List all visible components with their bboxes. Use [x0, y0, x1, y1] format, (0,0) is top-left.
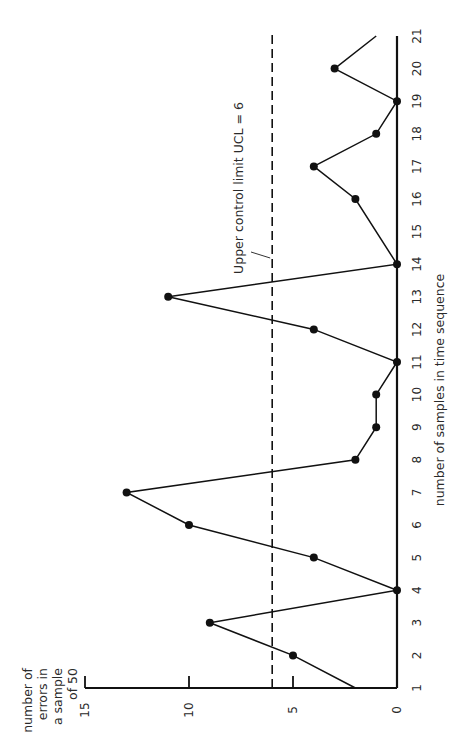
y-tick-label: 10: [182, 702, 196, 717]
y-axis-label-line: a sample: [50, 668, 65, 725]
y-tick-label: 5: [286, 706, 300, 714]
data-point: [393, 358, 401, 366]
data-point: [164, 293, 172, 301]
x-tick-label: 8: [410, 456, 424, 464]
x-tick-label: 18: [410, 126, 424, 141]
y-tick-label: 15: [78, 702, 92, 717]
data-point: [372, 391, 380, 399]
x-tick-label: 4: [410, 586, 424, 594]
chart-canvas: 051015 123456789101112131415161718192021…: [0, 0, 453, 745]
x-tick-label: 10: [410, 387, 424, 402]
x-tick-label: 17: [410, 159, 424, 174]
x-tick-label: 14: [410, 257, 424, 272]
data-series: [123, 36, 401, 688]
data-point: [185, 521, 193, 529]
y-axis-label-line: number of: [20, 667, 35, 732]
x-tick-label: 1: [410, 684, 424, 692]
data-point: [123, 488, 131, 496]
x-tick-label: 21: [410, 28, 424, 43]
x-tick-label: 16: [410, 191, 424, 206]
x-tick-label: 6: [410, 521, 424, 529]
data-point: [310, 554, 318, 562]
x-tick-label: 11: [410, 354, 424, 369]
x-tick-label: 13: [410, 289, 424, 304]
data-point: [206, 619, 214, 627]
x-tick-label: 20: [410, 61, 424, 76]
y-axis-label: number oferrors ina sampleof 50: [20, 667, 80, 732]
data-point: [393, 97, 401, 105]
data-point: [289, 651, 297, 659]
y-axis: 051015: [78, 676, 404, 718]
x-axis-label: number of samples in time sequence: [432, 273, 447, 506]
axis-labels: number of samples in time sequence Upper…: [20, 102, 447, 733]
data-point: [351, 456, 359, 464]
x-tick-label: 15: [410, 224, 424, 239]
x-tick-label: 5: [410, 554, 424, 562]
data-point: [331, 65, 339, 73]
ucl-label: Upper control limit UCL = 6: [231, 102, 246, 274]
y-axis-label-line: of 50: [65, 668, 80, 700]
data-point: [310, 325, 318, 333]
data-point: [372, 423, 380, 431]
y-tick-label: 0: [390, 706, 404, 714]
data-point: [393, 586, 401, 594]
data-point: [372, 130, 380, 138]
x-tick-label: 12: [410, 322, 424, 337]
x-tick-label: 9: [410, 423, 424, 431]
data-point: [393, 260, 401, 268]
y-axis-label-line: errors in: [35, 668, 50, 720]
data-point: [310, 162, 318, 170]
x-tick-label: 19: [410, 94, 424, 109]
ucl-reference-line: [251, 34, 272, 688]
data-point: [351, 195, 359, 203]
x-tick-label: 3: [410, 619, 424, 627]
x-tick-label: 7: [410, 489, 424, 497]
x-axis: 123456789101112131415161718192021: [397, 28, 424, 691]
x-tick-label: 2: [410, 652, 424, 660]
control-chart: 051015 123456789101112131415161718192021…: [0, 0, 453, 745]
